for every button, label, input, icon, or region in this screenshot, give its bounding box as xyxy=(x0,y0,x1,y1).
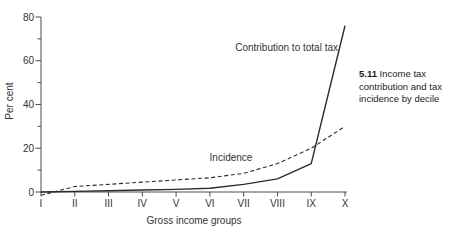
y-tick-label: 60 xyxy=(23,55,35,66)
x-tick-label: X xyxy=(342,198,349,209)
y-tick-label: 80 xyxy=(23,12,35,23)
y-tick-label: 40 xyxy=(23,99,35,110)
y-axis-label: Per cent xyxy=(4,82,15,119)
x-tick-label: V xyxy=(173,198,180,209)
contribution-label: Contribution to total tax xyxy=(235,42,338,53)
x-axis-label: Gross income groups xyxy=(146,215,241,226)
chart-svg: 020406080IIIIIIIVVVIVIIVIIIIXXPer centGr… xyxy=(0,0,451,237)
x-tick-label: I xyxy=(40,198,43,209)
x-tick-label: IX xyxy=(306,198,316,209)
x-tick-label: IV xyxy=(138,198,148,209)
x-tick-label: VII xyxy=(238,198,250,209)
caption-number: 5.11 xyxy=(359,68,377,79)
incidence-line xyxy=(41,126,345,195)
x-tick-label: III xyxy=(104,198,112,209)
figure: 020406080IIIIIIIVVVIVIIVIIIIXXPer centGr… xyxy=(0,0,451,237)
x-tick-label: II xyxy=(72,198,78,209)
figure-caption: 5.11 Income tax contribution and tax inc… xyxy=(359,68,451,106)
x-tick-label: VI xyxy=(205,198,214,209)
x-tick-label: VIII xyxy=(270,198,285,209)
y-tick-label: 0 xyxy=(28,187,34,198)
y-tick-label: 20 xyxy=(23,143,35,154)
incidence-label: Incidence xyxy=(210,152,253,163)
